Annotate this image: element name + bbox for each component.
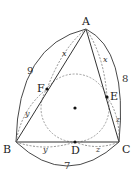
var-bf: y xyxy=(24,109,30,118)
var-cd: z xyxy=(95,145,101,154)
var-bd: y xyxy=(42,145,48,154)
label-a: A xyxy=(81,15,91,28)
point-e xyxy=(105,95,108,98)
side-ac xyxy=(86,29,119,142)
point-f xyxy=(45,87,48,90)
incenter-point xyxy=(73,106,76,109)
length-ac: 8 xyxy=(122,73,128,84)
incircle-diagram: A B C D E F 9 8 7 x x y y z z xyxy=(0,0,138,174)
label-e: E xyxy=(110,90,118,103)
var-ce: z xyxy=(115,115,121,124)
label-d: D xyxy=(71,144,80,157)
label-b: B xyxy=(3,143,11,156)
var-af: x xyxy=(62,49,67,58)
length-ab: 9 xyxy=(27,65,33,76)
label-c: C xyxy=(122,143,130,156)
length-bc: 7 xyxy=(64,160,70,171)
var-ae: x xyxy=(103,55,108,64)
label-f: F xyxy=(37,82,45,95)
